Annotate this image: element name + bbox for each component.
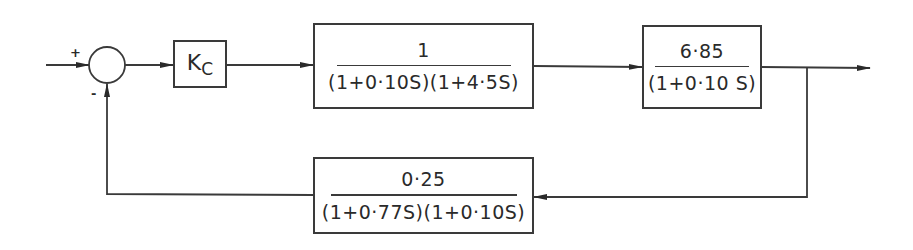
numerator: 0·25	[401, 168, 445, 194]
denominator: (1+0·10S)(1+4·5S)	[328, 66, 519, 93]
forward-transfer-function-block-2: 6·85 (1+0·10 S)	[642, 25, 762, 109]
numerator: 1	[417, 39, 430, 65]
feedback-transfer-function-block: 0·25 (1+0·77S)(1+0·10S)	[313, 157, 534, 234]
intermediate-signal-line	[534, 66, 642, 67]
numerator: 6·85	[680, 40, 724, 66]
denominator: (1+0·77S)(1+0·10S)	[322, 196, 525, 223]
plus-sign: +	[70, 45, 81, 60]
forward-transfer-function-block-1: 1 (1+0·10S)(1+4·5S)	[313, 23, 534, 109]
output-signal-line	[761, 67, 870, 68]
denominator: (1+0·10 S)	[648, 67, 756, 94]
transfer-function-fraction: 1 (1+0·10S)(1+4·5S)	[328, 39, 519, 94]
minus-sign: -	[91, 86, 96, 101]
summing-junction	[89, 47, 125, 83]
controller-gain-block: KC	[173, 40, 227, 88]
feedback-return-line	[107, 84, 313, 195]
controller-gain-label: KC	[187, 50, 213, 79]
transfer-function-fraction: 0·25 (1+0·77S)(1+0·10S)	[322, 168, 525, 223]
transfer-function-fraction: 6·85 (1+0·10 S)	[648, 40, 756, 95]
